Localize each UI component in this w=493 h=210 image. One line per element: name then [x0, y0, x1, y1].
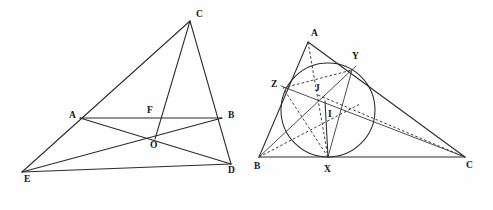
label-left-B: B [228, 111, 235, 121]
figure-svg [0, 0, 493, 210]
label-right-Y: Y [352, 52, 359, 62]
label-right-C: C [466, 161, 473, 171]
segment-toward-C-region [318, 95, 465, 157]
label-right-J: J [315, 84, 320, 94]
segment-E-D [22, 164, 231, 172]
segment-A-C [308, 42, 465, 157]
label-left-E: E [24, 175, 31, 185]
segment-C-O [155, 21, 190, 139]
geometry-figure-canvas: C A F B O D E A Y Z J I B X C [0, 0, 493, 210]
label-left-C: C [196, 10, 203, 20]
segment-B-toward-Y-region [259, 104, 360, 157]
segment-A-B [259, 42, 308, 157]
left-diagram-group [22, 21, 231, 172]
segment-C-D [190, 21, 231, 164]
label-left-O: O [150, 141, 158, 151]
right-diagram-group [259, 42, 465, 157]
label-right-A: A [311, 29, 318, 39]
label-left-A: A [69, 111, 76, 121]
label-right-Z: Z [271, 80, 278, 90]
label-right-I: I [328, 110, 332, 120]
label-left-F: F [147, 106, 153, 116]
label-right-X: X [324, 165, 331, 175]
cevian-A-X [308, 42, 328, 157]
label-left-D: D [228, 166, 235, 176]
label-right-B: B [254, 162, 261, 172]
